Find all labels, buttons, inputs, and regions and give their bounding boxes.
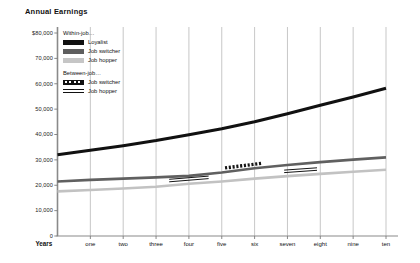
legend-item-loyalist: Loyalist	[63, 39, 153, 47]
x-axis-tick-label: seven	[270, 241, 304, 247]
legend-label: Job hopper	[88, 57, 117, 63]
between-job-segment-job-hopper	[284, 168, 317, 170]
y-axis-tick-label: 60,000	[8, 81, 53, 87]
legend-label: Job switcher	[88, 79, 120, 85]
x-axis-tick-label: four	[172, 241, 206, 247]
y-axis-tick-label: 50,000	[8, 106, 53, 112]
legend-item-job-switcher-within: Job switcher	[63, 48, 153, 56]
x-axis-tick-label: two	[106, 241, 140, 247]
y-axis-tick-label: 70,000	[8, 55, 53, 61]
legend-item-job-switcher-between: Job switcher	[63, 79, 153, 87]
between-job-segment-job-hopper	[284, 170, 317, 172]
x-axis-title: Years	[36, 240, 53, 247]
x-axis-tick-label: five	[205, 241, 239, 247]
legend-item-job-hopper-within: Job hopper	[63, 57, 153, 65]
y-axis-tick-label: 0	[8, 233, 53, 239]
x-axis-tick-label: eight	[303, 241, 337, 247]
x-axis-tick-label: one	[73, 241, 107, 247]
legend-label: Job hopper	[88, 88, 117, 94]
y-axis-tick-label: 40,000	[8, 131, 53, 137]
x-axis-tick-label: six	[238, 241, 272, 247]
y-axis-tick-label: 20,000	[8, 182, 53, 188]
legend-label: Loyalist	[88, 39, 108, 45]
legend-label: Job switcher	[88, 48, 120, 54]
y-axis-tick-label: 30,000	[8, 157, 53, 163]
legend-swatch-double-black-icon	[63, 89, 84, 94]
x-axis-tick-label: ten	[369, 241, 403, 247]
y-axis-tick-label: $80,000	[8, 30, 53, 36]
legend-swatch-solid-lightgray-icon	[63, 58, 84, 63]
legend-group-title: Between-job…	[63, 70, 153, 76]
x-axis-tick-label: nine	[336, 241, 370, 247]
legend-group-between-job: Between-job… Job switcher Job hopper	[63, 70, 153, 95]
legend-swatch-solid-darkgray-icon	[63, 49, 84, 54]
legend-swatch-dotted-black-icon	[63, 80, 84, 85]
chart-container: Annual Earnings $80,00070,00060,00050,00…	[0, 0, 420, 263]
chart-legend: Within-job… Loyalist Job switcher Job ho…	[63, 30, 153, 101]
x-axis-tick-label: three	[139, 241, 173, 247]
legend-item-job-hopper-between: Job hopper	[63, 88, 153, 96]
legend-group-title: Within-job…	[63, 30, 153, 36]
y-axis-tick-label: 10,000	[8, 207, 53, 213]
legend-swatch-solid-black-icon	[63, 40, 84, 45]
legend-group-within-job: Within-job… Loyalist Job switcher Job ho…	[63, 30, 153, 64]
